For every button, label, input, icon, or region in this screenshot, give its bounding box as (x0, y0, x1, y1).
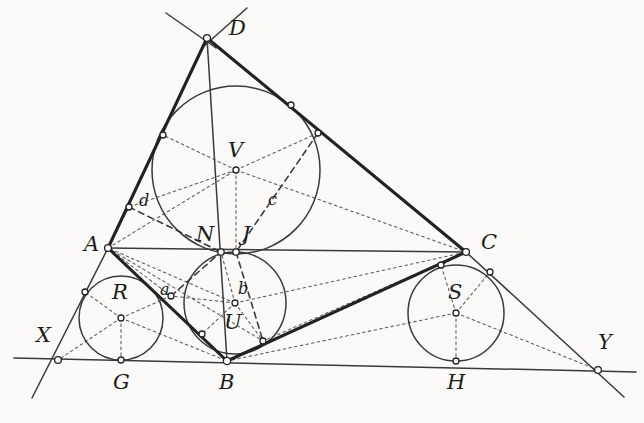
label-B: B (219, 372, 234, 393)
label-X: X (36, 325, 51, 346)
node-J (233, 249, 239, 255)
label-J: J (242, 224, 250, 245)
node-S (453, 310, 459, 316)
label-G: G (113, 372, 130, 393)
node-N (218, 249, 224, 255)
node-V (233, 167, 239, 173)
node-CS-1 (438, 262, 444, 268)
node-B (223, 357, 230, 364)
node-U (232, 300, 238, 306)
label-d: d (139, 193, 149, 209)
label-a: a (160, 282, 170, 298)
node-XA (82, 289, 88, 295)
label-c: c (268, 192, 277, 208)
node-G (118, 357, 124, 363)
label-N: N (196, 224, 214, 245)
node-CS-2 (487, 269, 493, 275)
node-d (126, 204, 132, 210)
node-DC-V2 (315, 130, 321, 136)
label-V: V (228, 140, 243, 161)
label-b: b (238, 281, 248, 297)
label-U: U (224, 312, 242, 333)
label-R: R (112, 282, 128, 303)
node-DC-V (288, 102, 294, 108)
node-Y (595, 367, 602, 374)
node-AD-V (160, 132, 166, 138)
node-BU-2 (260, 338, 266, 344)
node-C (463, 249, 470, 256)
node-BU-1 (199, 331, 205, 337)
label-A: A (84, 234, 99, 255)
geometry-figure: D V A C N J R S U X Y G B H d c a b (0, 0, 644, 423)
geometry-canvas (0, 0, 644, 423)
node-R (118, 315, 124, 321)
label-H: H (447, 372, 465, 393)
label-S: S (448, 282, 462, 303)
node-D (204, 35, 211, 42)
node-X (55, 357, 62, 364)
label-C: C (481, 232, 497, 253)
label-Y: Y (598, 332, 612, 353)
node-H (453, 358, 459, 364)
label-D: D (229, 18, 246, 39)
node-A (105, 245, 112, 252)
